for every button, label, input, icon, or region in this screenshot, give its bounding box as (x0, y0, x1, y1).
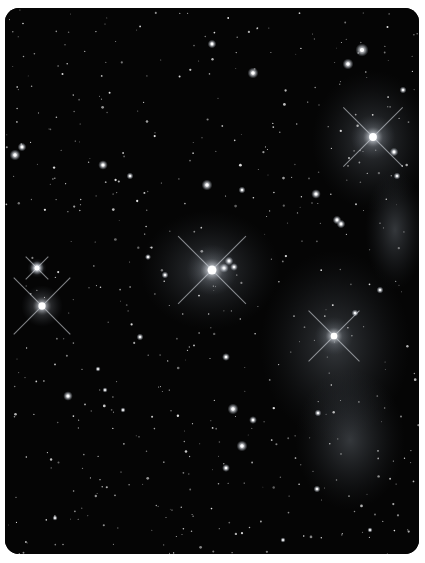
faint-star (6, 134, 7, 135)
faint-star (100, 286, 102, 288)
faint-star (79, 210, 81, 212)
faint-star (320, 269, 322, 271)
faint-star (146, 209, 148, 211)
faint-star (210, 420, 211, 421)
faint-star (262, 151, 264, 153)
faint-star (192, 423, 193, 424)
faint-star (211, 58, 213, 60)
faint-star (64, 44, 65, 45)
star (139, 336, 141, 338)
faint-star (155, 12, 157, 14)
faint-star (353, 150, 355, 152)
faint-star (169, 305, 170, 306)
faint-star (34, 53, 36, 55)
faint-star (73, 111, 74, 112)
faint-star (198, 61, 199, 62)
faint-star (405, 164, 408, 167)
faint-star (317, 203, 318, 204)
faint-star (309, 437, 310, 438)
faint-star (331, 148, 332, 149)
faint-star (299, 341, 300, 342)
faint-star (264, 234, 265, 235)
faint-star (83, 454, 85, 456)
faint-star (395, 281, 396, 282)
faint-star (295, 435, 296, 436)
faint-star (210, 327, 211, 328)
faint-star (214, 400, 215, 401)
faint-star (267, 149, 268, 150)
faint-star (399, 118, 400, 119)
faint-star (119, 220, 120, 221)
faint-star (117, 527, 118, 528)
faint-star (413, 34, 414, 35)
faint-star (96, 195, 97, 196)
faint-star (231, 552, 232, 553)
faint-star (96, 285, 97, 286)
faint-star (389, 13, 390, 14)
faint-star (103, 405, 106, 408)
faint-star (97, 456, 98, 457)
faint-star (269, 379, 271, 381)
faint-star (408, 121, 410, 123)
faint-star (280, 477, 282, 479)
faint-star (14, 413, 17, 416)
faint-star (332, 304, 334, 306)
faint-star (9, 19, 10, 20)
faint-star (340, 269, 342, 271)
faint-star (57, 65, 58, 66)
faint-star (13, 176, 14, 177)
faint-star (221, 125, 223, 127)
faint-star (67, 211, 68, 212)
faint-star (170, 410, 172, 412)
faint-star (296, 123, 298, 125)
faint-star (176, 338, 178, 340)
faint-star (298, 484, 300, 486)
faint-star (384, 407, 386, 409)
faint-star (137, 111, 138, 112)
faint-star (88, 161, 89, 162)
star (66, 394, 69, 397)
faint-star (151, 247, 153, 249)
faint-star (266, 216, 267, 217)
faint-star (16, 522, 17, 523)
faint-star (136, 30, 137, 31)
faint-star (97, 493, 98, 494)
faint-star (189, 160, 191, 162)
faint-star (159, 354, 161, 356)
faint-star (295, 54, 296, 55)
star (54, 517, 56, 519)
faint-star (311, 202, 312, 203)
faint-star (406, 345, 408, 347)
faint-star (384, 52, 386, 54)
faint-star (316, 240, 318, 242)
faint-star (78, 420, 79, 421)
faint-star (365, 71, 367, 73)
faint-star (244, 482, 245, 483)
faint-star (137, 247, 139, 249)
faint-star (387, 26, 389, 28)
faint-star (211, 508, 213, 510)
faint-star (293, 315, 295, 317)
faint-star (212, 469, 213, 470)
faint-star (199, 546, 202, 549)
faint-star (374, 514, 376, 516)
star (402, 89, 404, 91)
star (104, 389, 106, 391)
faint-star (314, 87, 316, 89)
faint-star (388, 60, 389, 61)
faint-star (273, 407, 275, 409)
faint-star (236, 52, 237, 53)
faint-star (369, 537, 370, 538)
faint-star (269, 210, 270, 211)
faint-star (192, 152, 194, 154)
faint-star (70, 14, 71, 15)
faint-star (254, 333, 255, 334)
faint-star (278, 281, 279, 282)
faint-star (154, 132, 155, 133)
faint-star (136, 435, 137, 436)
faint-star (154, 135, 156, 137)
faint-star (129, 286, 131, 288)
faint-star (389, 106, 391, 108)
faint-star (290, 351, 291, 352)
faint-star (235, 68, 236, 69)
